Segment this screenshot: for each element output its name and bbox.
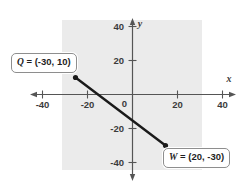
y-tick-label-40: 40 xyxy=(113,21,124,32)
coordinate-plane-figure: -40 -20 20 40 40 20 -20 -40 0 x y Q = (-… xyxy=(0,0,247,184)
point-label-w: W = (20, -30) xyxy=(163,148,230,168)
x-tick-label--20: -20 xyxy=(81,99,95,110)
x-tick-label-40: 40 xyxy=(217,99,228,110)
point-label-q-coords: (-30, 10) xyxy=(35,56,71,67)
point-label-q-name: Q xyxy=(17,57,24,67)
y-tick-label-20: 20 xyxy=(113,55,124,66)
x-tick-label--40: -40 xyxy=(36,99,50,110)
point-label-q-equals: = xyxy=(24,56,35,67)
y-tick-label--40: -40 xyxy=(110,157,124,168)
x-tick-label-20: 20 xyxy=(172,99,183,110)
y-axis-bottom-arrow xyxy=(130,174,135,181)
point-q xyxy=(73,75,78,80)
x-axis-right-arrow xyxy=(229,92,236,97)
y-axis-label: y xyxy=(137,18,143,29)
point-label-w-coords: (20, -30) xyxy=(188,151,224,162)
point-label-q: Q = (-30, 10) xyxy=(11,53,77,73)
y-tick-label--20: -20 xyxy=(110,123,124,134)
point-label-w-equals: = xyxy=(177,151,188,162)
x-axis-left-arrow xyxy=(30,92,37,97)
origin-label: 0 xyxy=(122,98,127,109)
x-axis-label: x xyxy=(226,73,232,84)
